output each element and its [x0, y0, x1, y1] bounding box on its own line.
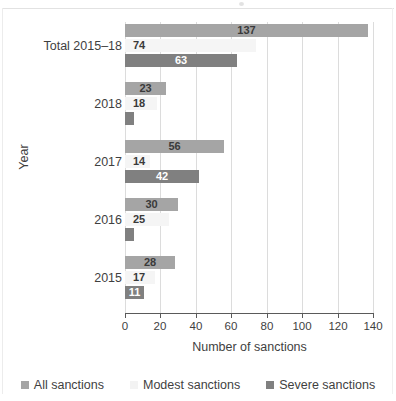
x-tick-140 [373, 313, 374, 318]
chart-legend: All sanctionsModest sanctionsSevere sanc… [0, 375, 396, 395]
gridline-80 [267, 22, 268, 313]
x-tick-label-40: 40 [176, 320, 216, 332]
category-label-total: Total 2015–18 [4, 39, 122, 53]
legend-item-all-sanctions[interactable]: All sanctions [21, 378, 104, 392]
legend-swatch-icon [266, 381, 274, 389]
bar-value-label: 18 [133, 97, 145, 110]
x-tick-80 [267, 313, 268, 318]
bar-value-label: 56 [125, 140, 224, 153]
plot-area: 137746323185614423025281711 [125, 22, 373, 313]
page-border-right [392, 8, 393, 394]
legend-swatch-icon [130, 381, 138, 389]
y-axis-title: Year [17, 127, 31, 187]
bar-modest-sanctions [125, 213, 169, 226]
bar-severe-sanctions [125, 112, 134, 125]
bar-value-label: 42 [125, 170, 199, 183]
x-tick-100 [302, 313, 303, 318]
legend-label: Severe sanctions [279, 378, 375, 392]
x-tick-120 [338, 313, 339, 318]
x-tick-label-100: 100 [282, 320, 322, 332]
bar-value-label: 17 [133, 271, 145, 284]
category-label-2015: 2015 [4, 271, 122, 285]
gridline-140 [373, 22, 374, 313]
bar-severe-sanctions [125, 228, 134, 241]
x-tick-label-60: 60 [211, 320, 251, 332]
bar-value-label: 137 [125, 24, 368, 37]
category-label-2016: 2016 [4, 213, 122, 227]
category-label-2018: 2018 [4, 97, 122, 111]
x-tick-0 [125, 313, 126, 318]
x-axis-title: Number of sanctions [125, 340, 374, 354]
bar-value-label: 30 [125, 198, 178, 211]
sanctions-bar-chart: 137746323185614423025281711 020406080100… [0, 0, 396, 401]
gridline-120 [338, 22, 339, 313]
legend-label: All sanctions [34, 378, 104, 392]
x-tick-label-120: 120 [318, 320, 358, 332]
bar-value-label: 14 [133, 155, 145, 168]
bar-value-label: 63 [125, 54, 237, 67]
x-tick-20 [160, 313, 161, 318]
legend-label: Modest sanctions [143, 378, 240, 392]
x-tick-60 [231, 313, 232, 318]
bar-value-label: 74 [133, 39, 145, 52]
bar-value-label: 23 [125, 82, 166, 95]
legend-swatch-icon [21, 381, 29, 389]
x-tick-label-20: 20 [140, 320, 180, 332]
x-axis-line [125, 313, 374, 314]
bar-value-label: 25 [133, 213, 145, 226]
gridline-100 [302, 22, 303, 313]
bar-value-label: 28 [125, 256, 175, 269]
bar-value-label: 11 [125, 286, 144, 299]
x-tick-label-80: 80 [247, 320, 287, 332]
x-tick-label-140: 140 [353, 320, 393, 332]
y-axis-category-labels: Total 2015–182018201720162015 [0, 0, 122, 401]
x-tick-40 [196, 313, 197, 318]
legend-item-severe-sanctions[interactable]: Severe sanctions [266, 378, 375, 392]
scan-artifact [239, 2, 244, 6]
legend-item-modest-sanctions[interactable]: Modest sanctions [130, 378, 240, 392]
